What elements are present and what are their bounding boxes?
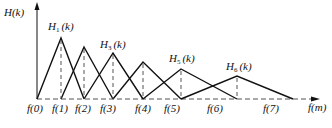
- filter-label-h1: H1(k): [47, 20, 74, 34]
- tick-f6: f(6): [207, 102, 223, 115]
- filter-label-h5: H5(k): [168, 52, 195, 66]
- x-axis-label: f(m): [308, 101, 327, 114]
- diagram-svg: H(k) f(m) H1(k) H3(k) H5(k) H6(k) f(0) f…: [0, 0, 332, 128]
- triangle-filters: [37, 38, 293, 99]
- y-axis-arrow-icon: [35, 2, 40, 10]
- peak-guides: [61, 40, 237, 99]
- filter-label-h3: H3(k): [99, 38, 126, 52]
- tick-f3: f(3): [100, 102, 116, 115]
- filter-bank-diagram: H(k) f(m) H1(k) H3(k) H5(k) H6(k) f(0) f…: [0, 0, 332, 128]
- filter-label-h6: H6(k): [225, 60, 252, 74]
- filter-h5: [143, 69, 237, 99]
- y-axis-label: H(k): [3, 6, 24, 19]
- filter-h2: [61, 47, 113, 99]
- tick-f2: f(2): [75, 102, 91, 115]
- tick-f1: f(1): [52, 102, 68, 115]
- tick-f0: f(0): [27, 102, 43, 115]
- tick-f7: f(7): [263, 102, 279, 115]
- tick-f5: f(5): [164, 102, 180, 115]
- tick-f4: f(4): [135, 102, 151, 115]
